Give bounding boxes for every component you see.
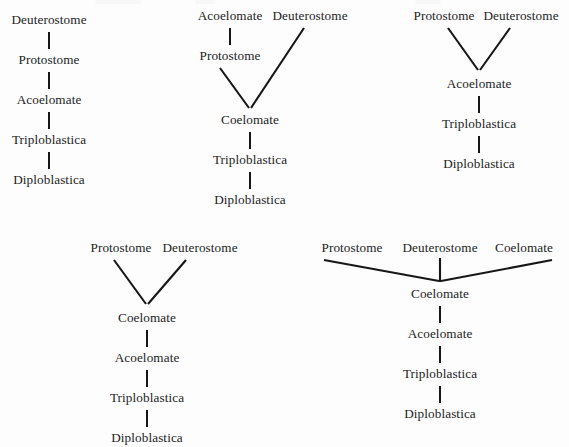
diagram-3-converge-to-acoelomate: Protostome Deuterostome Acoelomate Tripl… — [390, 0, 569, 190]
edge-protostome-to-coelomate — [324, 260, 439, 281]
edge-deuterostome-to-acoelomate — [480, 28, 510, 70]
link-acoelomate-triploblastica — [146, 370, 148, 387]
node-acoelomate: Acoelomate — [447, 76, 512, 92]
node-diploblastica: Diploblastica — [214, 192, 286, 208]
link-triploblastica-diploblastica — [48, 152, 50, 169]
node-triploblastica: Triploblastica — [403, 366, 477, 382]
node-coelomate: Coelomate — [221, 112, 279, 128]
node-protostome: Protostome — [413, 8, 474, 24]
link-acoelomate-triploblastica — [48, 112, 50, 129]
node-protostome: Protostome — [18, 52, 79, 68]
edge-protostome-to-acoelomate — [448, 28, 478, 70]
edge-deuterostome-to-coelomate — [148, 260, 186, 304]
link-coelomate-acoelomate — [439, 306, 441, 323]
node-deuterostome: Deuterostome — [272, 8, 347, 24]
branch-edges-diagram-4 — [70, 232, 260, 447]
link-acoelomate-protostome — [229, 28, 231, 45]
node-acoelomate: Acoelomate — [408, 326, 473, 342]
cladogram-figure: Deuterostome Protostome Acoelomate Tripl… — [0, 0, 569, 447]
node-coelomate: Coelomate — [411, 286, 469, 302]
node-triploblastica: Triploblastica — [442, 116, 516, 132]
node-acoelomate: Acoelomate — [17, 92, 82, 108]
node-acoelomate: Acoelomate — [115, 350, 180, 366]
link-coelomate-triploblastica — [249, 132, 251, 149]
edge-protostome-to-coelomate — [114, 260, 146, 304]
link-triploblastica-diploblastica — [249, 172, 251, 189]
node-diploblastica: Diploblastica — [404, 406, 476, 422]
link-triploblastica-diploblastica — [478, 136, 480, 153]
edge-deuterostome-to-coelomate — [251, 28, 304, 108]
diagram-2-acoelomate-protostome-branch: Acoelomate Deuterostome Protostome Coelo… — [180, 0, 365, 215]
diagram-1-linear-chain: Deuterostome Protostome Acoelomate Tripl… — [0, 0, 130, 210]
node-diploblastica: Diploblastica — [13, 172, 85, 188]
node-protostome: Protostome — [199, 48, 260, 64]
node-deuterostome: Deuterostome — [483, 8, 558, 24]
node-coelomate: Coelomate — [118, 310, 176, 326]
link-acoelomate-triploblastica — [439, 346, 441, 363]
node-deuterostome: Deuterostome — [11, 12, 86, 28]
edge-coelomate-top-to-coelomate — [441, 260, 552, 281]
node-triploblastica: Triploblastica — [12, 132, 86, 148]
link-triploblastica-diploblastica — [146, 410, 148, 427]
node-protostome: Protostome — [90, 240, 151, 256]
node-diploblastica: Diploblastica — [443, 156, 515, 172]
link-protostome-acoelomate — [48, 72, 50, 89]
node-protostome: Protostome — [321, 240, 382, 256]
link-deuterostome-protostome — [48, 32, 50, 49]
node-triploblastica: Triploblastica — [110, 390, 184, 406]
edge-protostome-to-coelomate — [220, 68, 249, 108]
node-deuterostome: Deuterostome — [162, 240, 237, 256]
link-acoelomate-triploblastica — [478, 96, 480, 113]
branch-edges-diagram-2 — [180, 0, 365, 215]
node-coelomate-top: Coelomate — [495, 240, 553, 256]
node-acoelomate: Acoelomate — [198, 8, 263, 24]
node-deuterostome: Deuterostome — [402, 240, 477, 256]
diagram-4-converge-to-coelomate: Protostome Deuterostome Coelomate Acoelo… — [70, 232, 260, 447]
node-diploblastica: Diploblastica — [111, 430, 183, 446]
node-triploblastica: Triploblastica — [213, 152, 287, 168]
link-coelomate-acoelomate — [146, 330, 148, 347]
diagram-5-three-way-polytomy: Protostome Deuterostome Coelomate Coelom… — [305, 232, 569, 447]
link-triploblastica-diploblastica — [439, 386, 441, 403]
